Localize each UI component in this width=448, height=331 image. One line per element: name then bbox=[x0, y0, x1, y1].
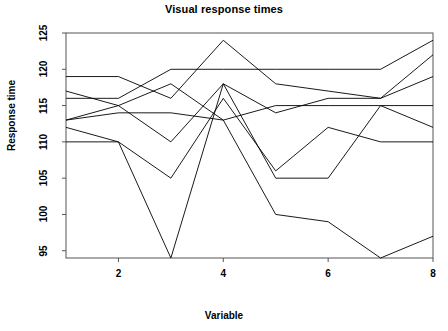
y-axis-tick-label: 125 bbox=[37, 21, 51, 45]
x-axis-tick-label: 6 bbox=[318, 268, 338, 279]
y-axis-tick-label: 100 bbox=[37, 202, 51, 226]
chart-container: Visual response times Response time Vari… bbox=[0, 0, 448, 331]
x-axis-tick-label: 8 bbox=[423, 268, 443, 279]
series-line-case-6 bbox=[66, 84, 433, 258]
y-axis-tick-label: 115 bbox=[37, 94, 51, 118]
y-axis-tick-label: 110 bbox=[37, 130, 51, 154]
y-axis-tick-label: 120 bbox=[37, 57, 51, 81]
series-line-case-5 bbox=[66, 98, 433, 178]
x-axis-tick-label: 2 bbox=[108, 268, 128, 279]
x-axis-tick-label: 4 bbox=[213, 268, 233, 279]
plot-area bbox=[0, 0, 448, 331]
plot-frame bbox=[66, 33, 433, 258]
y-axis-tick-label: 95 bbox=[37, 239, 51, 263]
series-line-case-1 bbox=[66, 40, 433, 98]
y-axis-tick-label: 105 bbox=[37, 166, 51, 190]
